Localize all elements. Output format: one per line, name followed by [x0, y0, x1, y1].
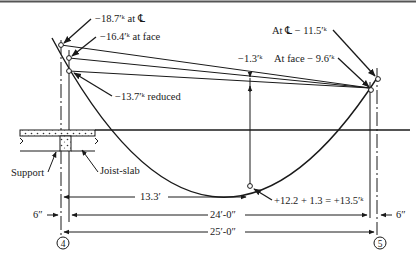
label-left-centerline: −18.7′ᵏ at ℄	[95, 13, 145, 24]
closing-line-centerline	[61, 45, 370, 88]
label-left-face: −16.4′ᵏ at face	[100, 31, 161, 42]
grid-marker-4-label: 4	[61, 239, 66, 249]
dim-to-max-moment: 13.3′	[140, 191, 161, 202]
label-max-positive: +12.2 + 1.3 = +13.5′ᵏ	[274, 195, 364, 206]
point-left-reduced	[67, 69, 72, 74]
dim-clear-span: 24′-0″	[210, 209, 236, 220]
dim-right-half-support: 6″	[396, 209, 406, 220]
dim-center-span: 25′-0″	[210, 226, 236, 237]
grid-marker-5-label: 5	[378, 239, 383, 249]
label-joist-slab: Joist-slab	[100, 165, 140, 176]
point-left-face	[67, 56, 72, 61]
label-right-face: At face − 9.6′ᵏ	[274, 53, 335, 64]
point-max-positive	[248, 184, 253, 189]
label-left-reduced: −13.7′ᵏ reduced	[115, 91, 182, 102]
label-support: Support	[11, 167, 44, 178]
point-left-centerline	[59, 43, 64, 48]
dim-left-half-support: 6″	[33, 209, 43, 220]
joist-slab-section	[20, 130, 410, 151]
label-right-centerline: At ℄ − 11.5′ᵏ	[272, 25, 328, 36]
label-midspan-offset: −1.3′ᵏ	[238, 53, 263, 64]
point-right-centerline	[376, 77, 381, 82]
point-right-face	[369, 88, 374, 93]
closing-line-reduced	[69, 71, 370, 88]
moment-diagram: −18.7′ᵏ at ℄ −16.4′ᵏ at face −13.7′ᵏ red…	[0, 0, 416, 260]
